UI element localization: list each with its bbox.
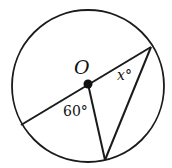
angle-label-x: x° (117, 67, 132, 83)
chord-line (105, 47, 151, 160)
center-point (84, 80, 93, 89)
center-label: O (74, 56, 90, 78)
angle-label-60: 60° (63, 103, 88, 119)
circle-diagram: O 60° x° (0, 0, 172, 168)
radius-line (88, 84, 105, 160)
